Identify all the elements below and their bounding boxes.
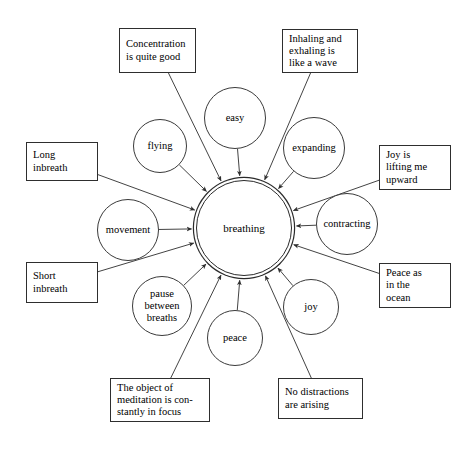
box-node-peace-in-ocean[interactable]: Peace as in the ocean: [379, 263, 451, 308]
edge-flying-to-center: [179, 165, 206, 191]
circle-node-label: easy: [226, 112, 245, 124]
box-node-label: Inhaling and exhaling is like a wave: [289, 33, 351, 70]
circle-node-label: contracting: [323, 218, 370, 230]
box-node-object-of-meditation[interactable]: The object of meditation is con- stantly…: [110, 378, 210, 422]
edge-easy-to-center: [238, 149, 240, 176]
box-node-label: Joy is lifting me upward: [386, 149, 444, 186]
center-node-breathing[interactable]: breathing: [196, 180, 292, 276]
box-node-label: Long inbreath: [33, 149, 91, 173]
edge-pause-to-center: [184, 264, 206, 285]
box-node-label: Short inbreath: [33, 270, 91, 294]
circle-node-pause-between-breaths[interactable]: pause between breaths: [132, 276, 192, 336]
circle-node-peace[interactable]: peace: [207, 310, 263, 366]
circle-node-flying[interactable]: flying: [133, 119, 187, 173]
circle-node-label: movement: [106, 224, 150, 236]
box-node-label: Peace as in the ocean: [386, 267, 444, 304]
box-node-no-distractions[interactable]: No distractions are arising: [278, 378, 363, 419]
edge-peace-to-center: [237, 280, 239, 310]
box-node-short-inbreath[interactable]: Short inbreath: [26, 262, 98, 303]
edge-joy-to-center: [278, 268, 293, 286]
diagram-canvas: breathing easy expanding contracting joy…: [0, 0, 476, 449]
box-node-label: The object of meditation is con- stantly…: [117, 382, 203, 419]
circle-node-label: pause between breaths: [145, 288, 180, 325]
circle-node-expanding[interactable]: expanding: [283, 117, 345, 179]
circle-node-contracting[interactable]: contracting: [316, 193, 378, 255]
box-node-long-inbreath[interactable]: Long inbreath: [26, 142, 98, 181]
box-node-joy-lifting-upward[interactable]: Joy is lifting me upward: [379, 145, 451, 190]
circle-node-label: expanding: [292, 142, 336, 154]
circle-node-easy[interactable]: easy: [204, 87, 266, 149]
box-node-label: Concentration is quite good: [126, 38, 189, 62]
edge-contracting-to-center: [296, 225, 316, 226]
box-node-label: No distractions are arising: [285, 386, 356, 410]
box-node-inhaling-exhaling-wave[interactable]: Inhaling and exhaling is like a wave: [282, 29, 358, 73]
circle-node-movement[interactable]: movement: [97, 199, 159, 261]
edge-movement-to-center: [159, 229, 192, 230]
circle-node-label: joy: [304, 301, 317, 313]
edge-expanding-to-center: [279, 171, 294, 188]
circle-node-label: peace: [223, 332, 247, 344]
box-node-concentration[interactable]: Concentration is quite good: [119, 28, 196, 73]
center-node-label: breathing: [223, 222, 265, 235]
circle-node-joy[interactable]: joy: [283, 279, 339, 335]
circle-node-label: flying: [147, 140, 172, 152]
